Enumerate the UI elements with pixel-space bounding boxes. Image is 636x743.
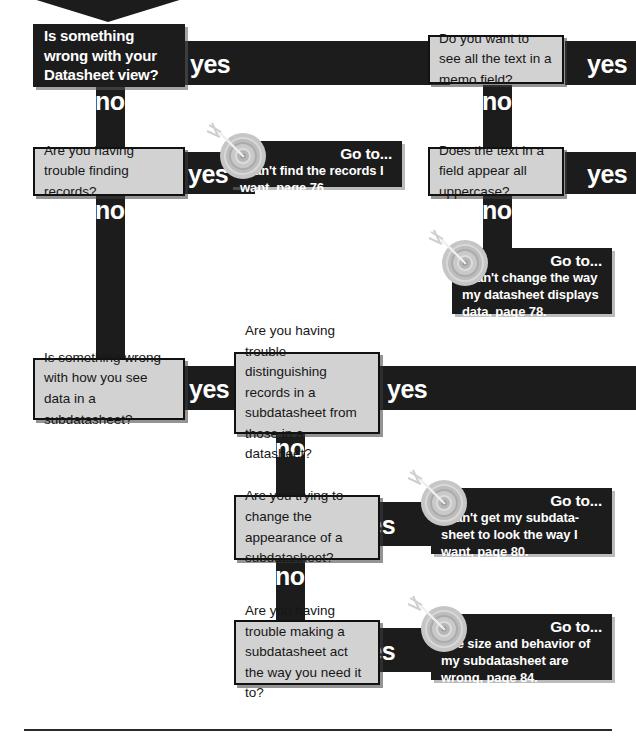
node-behavior[interactable]: Are you having trouble making a subdatas…: [234, 620, 380, 685]
node-appearance[interactable]: Are you trying to change the appearance …: [234, 495, 380, 560]
node-start[interactable]: Is something wrong with your Datasheet v…: [33, 24, 185, 87]
node-memo-field-text: Do you want to see all the text in a mem…: [439, 29, 553, 91]
chevron-down-icon: [30, 0, 186, 22]
node-start-text: Is something wrong with your Datasheet v…: [44, 26, 174, 86]
connector-label-yes: yes: [190, 52, 230, 77]
goto-body: The size and behavior of my subdatasheet…: [441, 636, 602, 687]
node-uppercase[interactable]: Does the text in a field appear all uppe…: [428, 147, 564, 196]
flowchart-canvas: yes yes no no Is something wrong with yo…: [0, 0, 636, 743]
goto-subdatasheet-size[interactable]: Go to... The size and behavior of my sub…: [431, 614, 612, 680]
connector-label-no: no: [95, 89, 125, 114]
goto-heading: Go to...: [240, 145, 392, 163]
connector-label-yes: yes: [587, 162, 627, 187]
node-find-records[interactable]: Are you having trouble finding records?: [33, 147, 185, 196]
goto-body: I can't get my subdata-sheet to look the…: [441, 510, 602, 561]
node-find-records-text: Are you having trouble finding records?: [44, 141, 174, 203]
node-uppercase-text: Does the text in a field appear all uppe…: [439, 141, 553, 203]
node-memo-field[interactable]: Do you want to see all the text in a mem…: [428, 35, 564, 84]
connector-label-yes: yes: [188, 162, 228, 187]
connector-label-yes: yes: [387, 377, 427, 402]
goto-heading: Go to...: [441, 492, 602, 510]
node-distinguishing-text: Are you having trouble distinguishing re…: [245, 321, 369, 465]
footer-divider: [24, 729, 612, 731]
goto-find-records[interactable]: Go to... I can't find the records I want…: [230, 141, 402, 187]
goto-heading: Go to...: [441, 618, 602, 636]
goto-heading: Go to...: [462, 252, 602, 270]
goto-subdatasheet-look[interactable]: Go to... I can't get my subdata-sheet to…: [431, 488, 612, 554]
node-distinguishing[interactable]: Are you having trouble distinguishing re…: [234, 352, 380, 434]
connector-label-no: no: [482, 89, 512, 114]
node-appearance-text: Are you trying to change the appearance …: [245, 486, 369, 568]
node-behavior-text: Are you having trouble making a subdatas…: [245, 601, 369, 704]
goto-body: I can't find the records I want, page 76…: [240, 163, 392, 197]
connector-label-yes: yes: [587, 52, 627, 77]
connector-label-yes: yes: [189, 377, 229, 402]
goto-body: I can't change the way my datasheet disp…: [462, 270, 602, 321]
node-subdatasheet-view[interactable]: Is something wrong with how you see data…: [33, 358, 185, 420]
node-subdatasheet-view-text: Is something wrong with how you see data…: [44, 348, 174, 430]
goto-datasheet-displays[interactable]: Go to... I can't change the way my datas…: [452, 248, 612, 314]
